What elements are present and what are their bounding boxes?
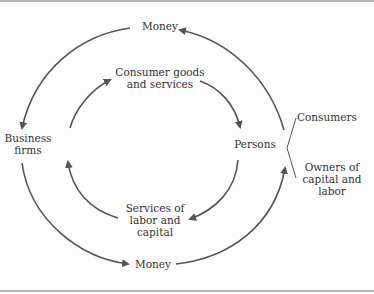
- money-bottom-label: Money: [128, 258, 178, 270]
- arrow-firms-to-goods: [70, 80, 110, 128]
- flow-arrows: [0, 0, 374, 294]
- arrow-firms-to-money-bottom: [22, 163, 128, 264]
- business-firms-node: Business firms: [0, 132, 56, 156]
- arrow-persons-to-services: [190, 160, 238, 219]
- circular-flow-diagram: Money Consumer goods and services Busine…: [0, 0, 374, 294]
- consumers-role-label: Consumers: [297, 111, 367, 123]
- persons-roles-bracket: [287, 118, 296, 178]
- persons-node: Persons: [230, 138, 280, 150]
- arrow-services-to-firms: [68, 162, 118, 218]
- services-labor-label: Services of labor and capital: [115, 202, 195, 238]
- money-top-label: Money: [130, 20, 190, 32]
- consumer-goods-label: Consumer goods and services: [105, 66, 215, 90]
- owners-role-label: Owners of capital and labor: [297, 161, 367, 197]
